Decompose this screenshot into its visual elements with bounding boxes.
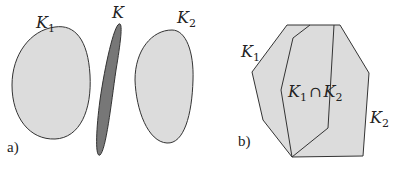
label-b-k2: K2 [369,108,389,130]
label-k: K [111,3,125,22]
panel-b-tag: b) [238,133,251,150]
label-k2: K2 [176,8,196,30]
panel-a: K1 K K2 a) [7,3,196,156]
shape-k1 [12,27,90,139]
shape-k2 [135,30,193,143]
label-k1: K1 [35,13,55,35]
panel-b: K1 K2 K1∩K2 b) [238,25,389,157]
label-intersection: K1∩K2 [287,82,342,104]
panel-a-tag: a) [7,139,19,156]
shape-k [97,24,122,155]
diagram-canvas: K1 K K2 a) K1 K2 K1∩K2 b) [0,0,398,170]
label-b-k1: K1 [240,42,260,64]
